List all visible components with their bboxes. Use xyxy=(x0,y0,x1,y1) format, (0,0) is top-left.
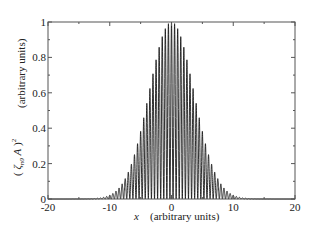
y-tick-label: 0 xyxy=(41,193,47,205)
x-tick-label: 20 xyxy=(290,201,302,213)
x-axis-title: x (arbitrary units) xyxy=(133,210,220,223)
y-tick-label: 1 xyxy=(41,16,47,28)
y-tick-label: 0.6 xyxy=(32,87,46,99)
chart: -20-1001020 00.20.40.60.81 x (arbitrary … xyxy=(0,0,316,234)
y-axis-units: (arbitrary units) xyxy=(15,38,28,108)
x-tick-label: 10 xyxy=(228,201,240,213)
y-tick-label: 0.2 xyxy=(32,158,46,170)
x-axis-variable: x xyxy=(133,210,139,222)
y-tick-label: 0.8 xyxy=(32,51,46,63)
y-axis-title: ( ζn0 A )2 (arbitrary units) xyxy=(10,38,28,176)
x-tick-label: -10 xyxy=(102,201,117,213)
y-axis-symbol: ( ζn0 A )2 xyxy=(10,138,26,176)
data-line xyxy=(48,22,295,199)
y-tick-labels: 00.20.40.60.81 xyxy=(32,16,46,205)
oscillation-curve xyxy=(48,22,295,199)
x-axis-units: (arbitrary units) xyxy=(150,210,220,223)
y-tick-label: 0.4 xyxy=(32,122,46,134)
